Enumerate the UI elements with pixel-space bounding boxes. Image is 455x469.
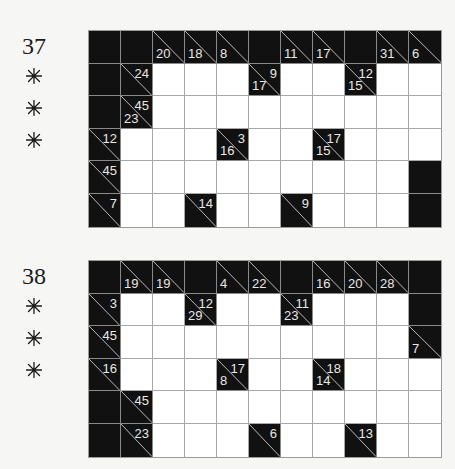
entry-cell[interactable] [313,64,345,97]
entry-cell[interactable] [281,391,313,424]
clue-cell: 316 [217,129,249,162]
down-sum: 15 [316,144,330,157]
entry-cell[interactable] [409,391,441,424]
entry-cell[interactable] [377,129,409,162]
entry-cell[interactable] [377,194,409,227]
entry-cell[interactable] [409,96,441,129]
entry-cell[interactable] [185,129,217,162]
entry-cell[interactable] [409,359,441,392]
entry-cell[interactable] [153,161,185,194]
entry-cell[interactable] [217,294,249,327]
entry-cell[interactable] [121,359,153,392]
entry-cell[interactable] [121,326,153,359]
entry-cell[interactable] [345,359,377,392]
blocked-cell [409,194,441,227]
entry-cell[interactable] [153,359,185,392]
entry-cell[interactable] [217,326,249,359]
entry-cell[interactable] [185,64,217,97]
entry-cell[interactable] [249,391,281,424]
entry-cell[interactable] [185,326,217,359]
entry-cell[interactable] [345,326,377,359]
entry-cell[interactable] [249,326,281,359]
entry-cell[interactable] [313,161,345,194]
entry-cell[interactable] [217,194,249,227]
entry-cell[interactable] [249,96,281,129]
clue-cell: 1229 [185,294,217,327]
entry-cell[interactable] [313,194,345,227]
entry-cell[interactable] [345,96,377,129]
entry-cell[interactable] [313,424,345,457]
blocked-cell [121,31,153,64]
entry-cell[interactable] [121,294,153,327]
entry-cell[interactable] [281,64,313,97]
entry-cell[interactable] [185,161,217,194]
entry-cell[interactable] [281,161,313,194]
clue-cell: 6 [249,424,281,457]
kakuro-grid: 1919422162028312291123457161781814452361… [88,260,442,458]
entry-cell[interactable] [153,391,185,424]
entry-cell[interactable] [345,161,377,194]
entry-cell[interactable] [249,129,281,162]
entry-cell[interactable] [377,359,409,392]
entry-cell[interactable] [345,391,377,424]
entry-cell[interactable] [249,194,281,227]
entry-cell[interactable] [377,326,409,359]
clue-cell: 7 [89,194,121,227]
entry-cell[interactable] [345,194,377,227]
difficulty-rating [26,298,42,394]
entry-cell[interactable] [185,359,217,392]
entry-cell[interactable] [249,294,281,327]
entry-cell[interactable] [313,326,345,359]
entry-cell[interactable] [409,424,441,457]
entry-cell[interactable] [281,96,313,129]
entry-cell[interactable] [217,161,249,194]
down-sum: 6 [412,47,419,60]
entry-cell[interactable] [153,64,185,97]
entry-cell[interactable] [185,391,217,424]
entry-cell[interactable] [281,424,313,457]
entry-cell[interactable] [153,424,185,457]
entry-cell[interactable] [281,359,313,392]
entry-cell[interactable] [217,391,249,424]
entry-cell[interactable] [281,326,313,359]
down-sum: 31 [380,47,394,60]
entry-cell[interactable] [377,96,409,129]
entry-cell[interactable] [153,96,185,129]
entry-cell[interactable] [185,424,217,457]
clue-cell: 16 [89,359,121,392]
entry-cell[interactable] [249,359,281,392]
down-sum: 11 [284,47,298,60]
entry-cell[interactable] [313,294,345,327]
entry-cell[interactable] [345,129,377,162]
entry-cell[interactable] [409,129,441,162]
entry-cell[interactable] [313,96,345,129]
entry-cell[interactable] [249,161,281,194]
entry-cell[interactable] [377,424,409,457]
entry-cell[interactable] [377,294,409,327]
entry-cell[interactable] [217,96,249,129]
entry-cell[interactable] [217,424,249,457]
entry-cell[interactable] [153,194,185,227]
entry-cell[interactable] [377,64,409,97]
clue-cell: 18 [185,31,217,64]
blocked-cell [409,294,441,327]
down-sum: 17 [252,79,266,92]
entry-cell[interactable] [377,161,409,194]
entry-cell[interactable] [153,129,185,162]
entry-cell[interactable] [153,294,185,327]
entry-cell[interactable] [345,294,377,327]
entry-cell[interactable] [121,194,153,227]
entry-cell[interactable] [377,391,409,424]
entry-cell[interactable] [281,129,313,162]
entry-cell[interactable] [313,391,345,424]
across-sum: 16 [103,362,117,375]
entry-cell[interactable] [121,161,153,194]
entry-cell[interactable] [121,129,153,162]
entry-cell[interactable] [153,326,185,359]
entry-cell[interactable] [409,64,441,97]
entry-cell[interactable] [185,96,217,129]
entry-cell[interactable] [217,64,249,97]
clue-cell: 45 [121,391,153,424]
down-sum: 23 [124,112,138,125]
down-sum: 28 [380,277,394,290]
